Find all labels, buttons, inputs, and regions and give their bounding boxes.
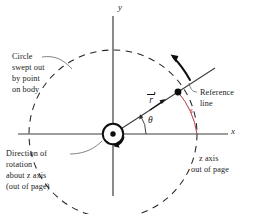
radius-vector-label: r bbox=[146, 92, 156, 105]
y-axis-label: y bbox=[118, 2, 122, 12]
annotation-circle-swept-line-1: Circle bbox=[12, 52, 33, 61]
annotation-circle-swept-line-2: swept out bbox=[12, 63, 45, 72]
arc-length-label: s bbox=[190, 106, 193, 115]
leader-direction-rotation bbox=[70, 141, 102, 154]
annotation-circle-swept-line-3: by point bbox=[12, 74, 40, 83]
theta-label: θ bbox=[148, 115, 153, 125]
annotation-rotation-line-4: (out of page) bbox=[6, 182, 50, 191]
leader-circle-swept bbox=[42, 57, 72, 69]
point-on-body-dot bbox=[175, 89, 182, 96]
annotation-reference-line-1: Reference bbox=[200, 88, 234, 97]
annotation-z-axis-line-2: out of page bbox=[191, 165, 229, 174]
radius-vector-symbol: r bbox=[146, 96, 156, 105]
annotation-rotation-line-3: about z axis bbox=[6, 171, 46, 180]
annotation-reference-line-2: line bbox=[200, 99, 213, 108]
theta-angle-arc bbox=[141, 116, 146, 134]
x-axis-label: x bbox=[231, 126, 235, 136]
vector-arrow-overbar bbox=[147, 92, 155, 96]
origin-dot-out-of-page bbox=[110, 131, 115, 136]
annotation-rotation-line-2: rotation bbox=[6, 160, 32, 169]
annotation-rotation-line-1: Direction of bbox=[6, 149, 47, 158]
annotation-circle-swept-line-4: on body bbox=[12, 85, 39, 94]
annotation-z-axis-line-1: z axis bbox=[199, 154, 218, 163]
figure-canvas: y x r θ s Circle swept out by point on b… bbox=[0, 0, 257, 214]
